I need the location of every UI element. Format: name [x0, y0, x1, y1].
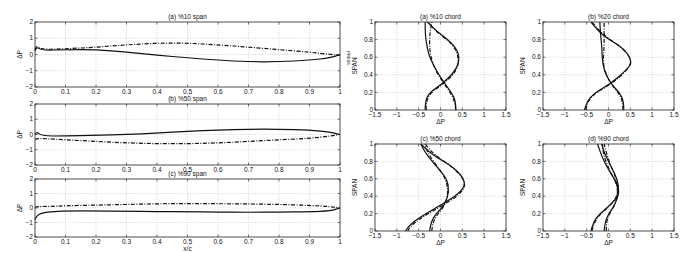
y-tick-label: 0.8 [364, 158, 373, 165]
y-tick-label: 0.8 [364, 36, 373, 43]
series-dashed-1 [604, 22, 623, 110]
x-tick-label: 0.5 [458, 232, 467, 239]
y-tick-label: 0 [29, 131, 33, 138]
y-tick-label: 2 [29, 18, 33, 25]
x-tick-label: 0 [607, 111, 611, 118]
x-tick-label: 0.3 [122, 166, 131, 173]
chart-title: (c) %50 chord [420, 135, 461, 143]
x-tick-label: −1 [561, 232, 569, 239]
y-tick-label: 0 [537, 227, 541, 234]
y-tick-label: 0.2 [364, 210, 373, 217]
x-tick-label: 0.5 [183, 88, 192, 95]
x-tick-label: 0.5 [458, 111, 467, 118]
x-axis-label: x/c [183, 245, 192, 252]
x-tick-label: 0.2 [91, 238, 100, 245]
x-tick-label: 0.4 [152, 238, 161, 245]
y-axis-label: ΔP [16, 50, 23, 59]
y-tick-label: 1 [29, 190, 33, 197]
y-tick-label: −2 [26, 161, 34, 168]
chart-title: (c) %90 span [168, 170, 207, 178]
chart-title: (b) %50 span [168, 95, 207, 103]
y-tick-label: 0 [29, 51, 33, 58]
y-tick-label: 2 [29, 175, 33, 182]
x-tick-label: 0.5 [626, 111, 635, 118]
y-axis-label: SPAN [351, 179, 358, 197]
y-tick-label: 1 [29, 34, 33, 41]
panel-b_span: 00.10.20.30.40.50.60.70.80.91−2−1012(b) … [16, 95, 342, 173]
x-tick-label: 1 [338, 166, 342, 173]
x-tick-label: 1.5 [501, 111, 510, 118]
x-tick-label: 0.4 [152, 88, 161, 95]
x-tick-label: 0 [607, 232, 611, 239]
x-tick-label: −0.5 [580, 111, 593, 118]
y-tick-label: 0 [369, 227, 373, 234]
x-tick-label: 1.5 [669, 111, 678, 118]
y-tick-label: 0.2 [532, 89, 541, 96]
x-tick-label: 0 [33, 166, 37, 173]
x-tick-label: 1 [482, 111, 486, 118]
x-tick-label: 0.1 [61, 166, 70, 173]
panel-d_chord: −1.5−1−0.500.511.500.20.40.60.81(d) %90 … [519, 135, 679, 246]
x-tick-label: 1.5 [669, 232, 678, 239]
x-tick-label: 0.2 [91, 88, 100, 95]
y-axis-label: ΔP [16, 204, 23, 213]
panel-a_span: 00.10.20.30.40.50.60.70.80.91−2−1012(a) … [16, 13, 342, 95]
x-tick-label: 0.3 [122, 238, 131, 245]
x-tick-label: 1 [650, 111, 654, 118]
x-axis-label: ΔP [604, 118, 613, 125]
y-tick-label: 0.4 [364, 192, 373, 199]
x-tick-label: 0.6 [213, 238, 222, 245]
series-solid-1 [406, 144, 465, 231]
x-axis-label: ΔP [604, 239, 613, 246]
x-tick-label: 1.5 [501, 232, 510, 239]
y-tick-label: 0 [29, 204, 33, 211]
y-tick-label: −1 [26, 219, 34, 226]
y-tick-label: −2 [26, 83, 34, 90]
y-tick-label: 0.2 [532, 210, 541, 217]
figure: 00.10.20.30.40.50.60.70.80.91−2−1012(a) … [0, 0, 695, 253]
x-tick-label: 0.7 [244, 88, 253, 95]
panel-b_chord: −1.5−1−0.500.511.500.20.40.60.81(b) %20 … [519, 13, 679, 125]
y-tick-label: 0.6 [532, 175, 541, 182]
y-tick-label: 0.4 [364, 71, 373, 78]
y-tick-label: 2 [29, 100, 33, 107]
side-label: PRESS [346, 51, 351, 65]
x-tick-label: 0.8 [274, 88, 283, 95]
x-tick-label: 0.1 [61, 88, 70, 95]
y-tick-label: 1 [537, 140, 541, 147]
x-tick-label: 0.5 [626, 232, 635, 239]
x-tick-label: 1 [338, 238, 342, 245]
y-tick-label: 1 [369, 140, 373, 147]
x-tick-label: −1 [393, 232, 401, 239]
chart-title: (a) %10 chord [420, 13, 461, 21]
x-tick-label: 0.8 [274, 166, 283, 173]
y-tick-label: 0.8 [532, 158, 541, 165]
x-axis-label: ΔP [436, 118, 445, 125]
y-tick-label: 0 [369, 106, 373, 113]
x-tick-label: 0.6 [213, 166, 222, 173]
x-tick-label: 0.2 [91, 166, 100, 173]
y-tick-label: 0.8 [532, 36, 541, 43]
x-tick-label: 0.6 [213, 88, 222, 95]
y-tick-label: 0.4 [532, 192, 541, 199]
y-tick-label: 1 [29, 115, 33, 122]
x-tick-label: 0 [439, 232, 443, 239]
y-axis-label: SPAN [519, 179, 526, 197]
x-tick-label: 0.7 [244, 166, 253, 173]
y-tick-label: 0.4 [532, 71, 541, 78]
x-tick-label: −0.5 [412, 111, 425, 118]
x-tick-label: 0 [33, 88, 37, 95]
y-tick-label: 1 [369, 18, 373, 25]
x-tick-label: 0.9 [305, 238, 314, 245]
x-tick-label: 1 [338, 88, 342, 95]
x-tick-label: −1 [561, 111, 569, 118]
y-axis-label: SPAN [351, 57, 358, 75]
y-tick-label: 0.2 [364, 89, 373, 96]
panel-a_chord: −1.5−1−0.500.511.500.20.40.60.81(a) %10 … [351, 13, 511, 125]
x-tick-label: 0.4 [152, 166, 161, 173]
x-tick-label: 0.1 [61, 238, 70, 245]
x-axis-label: ΔP [436, 239, 445, 246]
chart-title: (d) %90 chord [588, 135, 629, 143]
y-tick-label: −2 [26, 233, 34, 240]
chart-title: (a) %10 span [168, 13, 207, 21]
